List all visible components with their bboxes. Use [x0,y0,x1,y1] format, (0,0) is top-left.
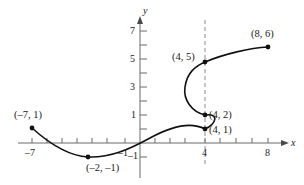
annotation-neg7-1: (–7, 1) [14,110,42,121]
y-tick-label-neg1: –1 [128,151,138,161]
curve-path [32,47,268,157]
y-tick-label-3: 3 [130,82,135,92]
point-4-5 [203,60,208,65]
point-neg2-neg1 [86,155,91,160]
y-tick-label-7: 7 [130,26,135,36]
x-axis-label: x [291,138,295,148]
y-tick-label-5: 5 [130,54,135,64]
graph-figure: x y –7 –1 4 8 7 5 3 1 –1 (–7, 1) (–2, –1… [0,0,304,185]
x-tick-label-neg7: –7 [25,148,35,158]
annotation-4-2: (4, 2) [209,110,232,121]
y-axis [137,16,147,178]
point-4-2 [203,113,208,118]
annotation-neg2-neg1: (–2, –1) [86,163,119,174]
annotation-4-5: (4, 5) [172,52,195,63]
x-tick-label-neg1: –1 [118,148,128,158]
marked-points [30,45,271,160]
point-8-6 [266,45,271,50]
y-axis-label: y [143,6,147,16]
annotation-4-1: (4, 1) [209,125,232,136]
x-axis [18,138,289,146]
x-tick-label-8: 8 [265,148,270,158]
point-4-1 [203,127,208,132]
annotation-8-6: (8, 6) [251,29,274,40]
point-neg7-1 [30,126,35,131]
x-tick-label-4: 4 [202,148,207,158]
y-tick-label-1: 1 [131,110,136,120]
